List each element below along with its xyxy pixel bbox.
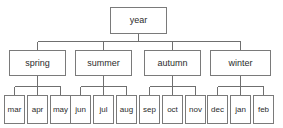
node-jun[interactable]: jun xyxy=(70,95,91,124)
node-aug-label: aug xyxy=(120,106,133,114)
node-jun-label: jun xyxy=(75,106,86,114)
node-mar-label: mar xyxy=(8,106,22,114)
node-autumn-label: autumn xyxy=(157,59,187,68)
node-spring-label: spring xyxy=(25,59,50,68)
node-feb-label: feb xyxy=(258,106,269,114)
node-summer[interactable]: summer xyxy=(75,50,132,76)
node-jul[interactable]: jul xyxy=(93,95,114,124)
node-dec[interactable]: dec xyxy=(207,95,228,124)
node-jan[interactable]: jan xyxy=(230,95,251,124)
node-jul-label: jul xyxy=(99,106,107,114)
node-apr-label: apr xyxy=(32,106,44,114)
node-nov-label: nov xyxy=(189,106,202,114)
node-dec-label: dec xyxy=(211,106,224,114)
node-year-label: year xyxy=(130,16,148,25)
node-oct-label: oct xyxy=(167,106,178,114)
node-may[interactable]: may xyxy=(50,95,71,124)
node-nov[interactable]: nov xyxy=(185,95,206,124)
node-sep[interactable]: sep xyxy=(139,95,160,124)
node-apr[interactable]: apr xyxy=(27,95,48,124)
node-may-label: may xyxy=(53,106,68,114)
node-aug[interactable]: aug xyxy=(116,95,137,124)
node-oct[interactable]: oct xyxy=(162,95,183,124)
node-year[interactable]: year xyxy=(110,7,167,34)
node-summer-label: summer xyxy=(87,59,120,68)
node-jan-label: jan xyxy=(235,106,246,114)
node-feb[interactable]: feb xyxy=(253,95,274,124)
node-sep-label: sep xyxy=(143,106,156,114)
node-spring[interactable]: spring xyxy=(9,50,66,76)
node-winter[interactable]: winter xyxy=(210,50,271,76)
node-winter-label: winter xyxy=(228,59,252,68)
node-autumn[interactable]: autumn xyxy=(144,50,201,76)
node-mar[interactable]: mar xyxy=(4,95,25,124)
tree-diagram: year spring summer autumn winter mar apr… xyxy=(0,0,283,128)
